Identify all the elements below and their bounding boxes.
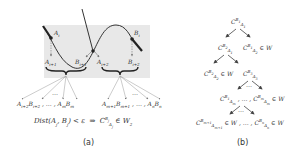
label-ai1: Ai+1 <box>45 59 57 67</box>
label-ai: Ai <box>54 30 60 38</box>
tree-l1-right: CB1A2 ∈ W <box>243 44 272 55</box>
caption-b: (b) <box>237 138 248 147</box>
caption-a: (a) <box>83 138 94 147</box>
label-bi1: Bi+1 <box>75 59 87 67</box>
right-leaves: Am+1Bm+1 , … , AnBn <box>102 101 162 109</box>
tree-dots-2: … <box>238 107 244 113</box>
point-ai <box>49 36 53 40</box>
tree-root: CB1A1 <box>231 18 246 29</box>
left-leaves: Ai+2Bi+2 , … , AmBm <box>17 101 74 109</box>
dots-left: … <box>52 90 58 96</box>
label-ai2: Ai+2 <box>97 59 109 67</box>
distance-formula: Dist(Aj, Bj) < ε ⇒ CBjAj ∈ W2 <box>34 117 132 129</box>
tree-dots-1: … <box>246 82 252 88</box>
tree-l4: CBm+1Am+1 ∈ W , … , CBnAn ∈ W <box>196 119 284 130</box>
tree-l2-left: CB2A2 ∈ W <box>204 70 233 81</box>
tree-l1-left: CB2A1 <box>218 44 233 55</box>
dots-right: … <box>132 90 138 96</box>
label-bi: Bi <box>134 30 140 38</box>
label-bi2: Bi+2 <box>128 59 140 67</box>
tree-l2-right: CB3A3 <box>243 70 258 81</box>
point-mid <box>91 49 95 53</box>
tree-l3: CB1Am , … , CBmAm ∈ W <box>220 95 284 106</box>
